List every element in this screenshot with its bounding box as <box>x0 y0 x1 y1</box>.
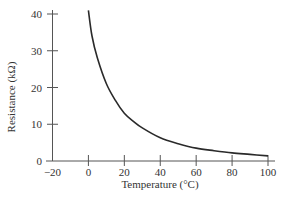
data-curve <box>88 10 268 156</box>
y-tick-label: 10 <box>31 118 43 130</box>
y-tick-label: 40 <box>31 8 43 20</box>
chart: 010203040 −20020406080100 Temperature (°… <box>0 0 289 206</box>
x-axis-label: Temperature (°C) <box>121 178 199 191</box>
x-tick-label: 20 <box>119 166 131 178</box>
x-tick-label: 80 <box>227 166 239 178</box>
y-tick-label: 0 <box>37 155 43 167</box>
y-tick-label: 20 <box>31 82 43 94</box>
x-tick-label: 60 <box>191 166 203 178</box>
x-tick-label: −20 <box>44 166 62 178</box>
x-tick-label: 0 <box>86 166 92 178</box>
x-tick-label: 40 <box>155 166 167 178</box>
x-tick-label: 100 <box>260 166 277 178</box>
y-ticks: 010203040 <box>31 8 58 167</box>
y-axis-label: Resistance (kΩ) <box>5 61 18 132</box>
x-ticks: −20020406080100 <box>44 155 277 178</box>
y-tick-label: 30 <box>31 45 43 57</box>
